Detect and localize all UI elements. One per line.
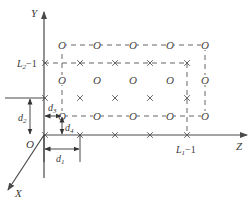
x-marker	[147, 60, 153, 66]
dual-array-coordinate-diagram: OOOOOOOOOOOOOOO Y Z X O L2−1 L1−1 d1	[0, 0, 250, 199]
origin-label: O	[26, 138, 34, 150]
d3-label: d3	[48, 102, 57, 115]
z-tick-label: L1−1	[175, 144, 196, 157]
x-axis-label: X	[14, 187, 23, 199]
x-marker	[77, 95, 83, 101]
d4-label: d4	[65, 122, 74, 135]
o-marker: O	[129, 110, 137, 122]
d1-label: d1	[56, 153, 65, 166]
o-marker: O	[129, 39, 137, 51]
labels: Y Z X O L2−1 L1−1 d1 d2 d3 d4	[14, 7, 243, 199]
z-axis-label: Z	[236, 140, 243, 152]
axes	[8, 12, 247, 190]
x-marker	[147, 95, 153, 101]
o-marker: O	[58, 39, 66, 51]
x-marker	[112, 95, 118, 101]
o-marker: O	[93, 39, 101, 51]
o-marker: O	[93, 110, 101, 122]
o-marker: O	[201, 110, 209, 122]
o-marker: O	[166, 39, 174, 51]
y-tick-label: L2−1	[16, 58, 37, 71]
o-marker: O	[201, 74, 209, 86]
o-markers: OOOOOOOOOOOOOOO	[58, 39, 209, 122]
y-axis-label: Y	[31, 7, 39, 19]
z-tick-suffix: −1	[185, 144, 196, 155]
y-tick-suffix: −1	[26, 58, 37, 69]
o-marker: O	[93, 74, 101, 86]
o-marker: O	[58, 74, 66, 86]
o-marker: O	[166, 110, 174, 122]
o-marker: O	[129, 74, 137, 86]
o-marker: O	[166, 74, 174, 86]
d2-label: d2	[18, 112, 27, 125]
o-marker: O	[201, 39, 209, 51]
